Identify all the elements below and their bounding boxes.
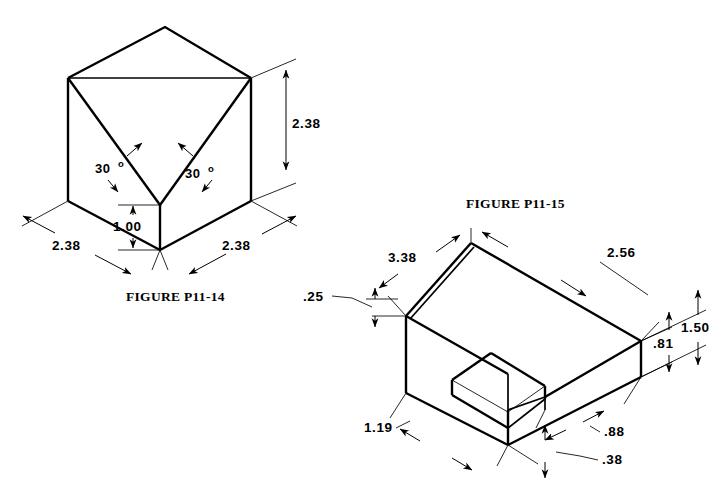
ext-line-left-base-end: [152, 250, 160, 270]
ext-line-right-base-end: [160, 250, 168, 270]
dim-leader-angle-right-lower: [202, 180, 212, 192]
block-rim-inner-left: [410, 247, 474, 319]
block-front-left-top-edge: [406, 316, 508, 374]
dim-label-notch-100: 1.00: [113, 219, 142, 234]
dim-label-38: .38: [602, 452, 623, 467]
block-front-right-top-edge: [545, 341, 641, 397]
ext-line-38-upper: [508, 445, 538, 464]
pocket-top-left-edge: [452, 353, 491, 380]
drawing-sheet: 2.38 2.38 2.38 1.00 30 o: [0, 0, 726, 501]
ext-line-119-end: [497, 445, 508, 466]
dim-label-150: 1.50: [681, 320, 710, 335]
dim-label-angle-left: 30: [95, 161, 110, 176]
cube-top-ridge-edges: [68, 27, 251, 78]
leader-25: [332, 296, 372, 307]
ext-line-119-start: [390, 393, 406, 418]
dim-label-88: .88: [604, 424, 625, 439]
figure-caption-left: FIGURE P11-14: [126, 289, 225, 304]
dim-label-119: 1.19: [364, 420, 393, 435]
dim-label-256: 2.56: [607, 245, 636, 260]
dim-line-256-a: [482, 232, 508, 247]
degree-symbol-left-icon: o: [118, 158, 124, 169]
dim-line-right-base-a: [262, 216, 296, 234]
ext-line-right-base-start: [251, 201, 297, 226]
ext-line-88-start: [536, 410, 545, 428]
dim-label-right-base-238: 2.38: [222, 238, 251, 253]
dim-line-88-b: [583, 411, 604, 422]
notch-right-face-edge: [160, 78, 251, 205]
figure-p11-14-geometry: 2.38 2.38 2.38 1.00 30 o: [22, 27, 321, 304]
dim-label-25: .25: [303, 289, 324, 304]
ext-line-81-bottom: [641, 362, 672, 377]
ext-line-left-base-start: [22, 201, 68, 226]
dim-line-338-a: [379, 274, 398, 288]
dim-line-338-b: [436, 235, 460, 252]
ext-line-height-top: [251, 59, 296, 78]
pocket-hidden-diagonal: [452, 380, 508, 412]
notch-left-face-edge: [68, 78, 160, 205]
leader-256: [600, 262, 648, 295]
figure-caption-right: FIGURE P11-15: [466, 196, 565, 211]
degree-symbol-right-icon: o: [208, 163, 214, 174]
dim-line-119-a: [400, 429, 420, 441]
dim-label-338: 3.38: [388, 250, 417, 265]
dim-label-left-base-238: 2.38: [52, 238, 81, 253]
technical-drawing-canvas: 2.38 2.38 2.38 1.00 30 o: [0, 0, 726, 501]
dim-line-256-b: [561, 280, 586, 296]
ext-line-height-bottom: [251, 183, 296, 201]
leader-38: [556, 452, 598, 460]
dim-line-88-a: [545, 430, 566, 440]
dim-line-left-base-a: [23, 216, 55, 233]
dim-leader-angle-right-upper: [178, 143, 193, 156]
dim-label-angle-right: 30: [185, 166, 200, 181]
dim-label-81: .81: [653, 336, 674, 351]
pocket-bottom-left-edge: [452, 395, 508, 428]
leader-88: [590, 426, 600, 432]
dim-label-height-238: 2.38: [292, 116, 321, 131]
dim-line-left-base-b: [95, 255, 131, 274]
leader-119: [396, 421, 410, 428]
dim-leader-angle-left-lower: [108, 180, 118, 192]
dim-line-119-b: [452, 458, 472, 470]
dim-leader-angle-left-upper: [127, 143, 142, 156]
dim-line-right-base-b: [189, 254, 226, 274]
figure-p11-15-geometry: FIGURE P11-15: [303, 196, 710, 478]
